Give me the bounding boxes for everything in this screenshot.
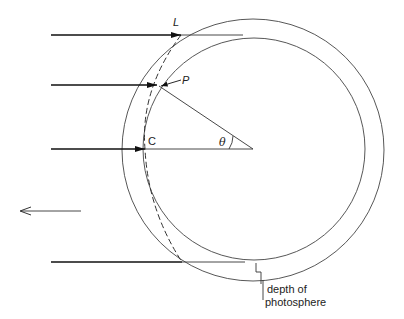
- radius-line-P: [159, 86, 253, 149]
- label-depth-line1: depth of: [267, 283, 308, 295]
- label-C: C: [148, 135, 156, 147]
- label-depth-line2: photosphere: [265, 296, 326, 308]
- label-P: P: [182, 74, 190, 86]
- outer-photosphere-circle: [122, 19, 384, 281]
- limb-darkening-diagram: L P C θ depth of photosphere: [0, 0, 404, 319]
- label-theta: θ: [219, 136, 226, 149]
- label-L: L: [173, 16, 179, 28]
- pointer-P: [161, 80, 181, 86]
- angle-theta-arc: [229, 136, 233, 149]
